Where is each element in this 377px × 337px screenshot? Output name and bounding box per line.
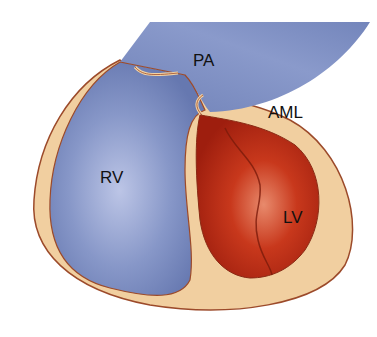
heart-diagram: PA AML RV LV [0,0,377,337]
label-rv: RV [100,168,124,187]
label-aml: AML [268,103,303,122]
label-pa: PA [193,51,215,70]
label-lv: LV [283,208,303,227]
